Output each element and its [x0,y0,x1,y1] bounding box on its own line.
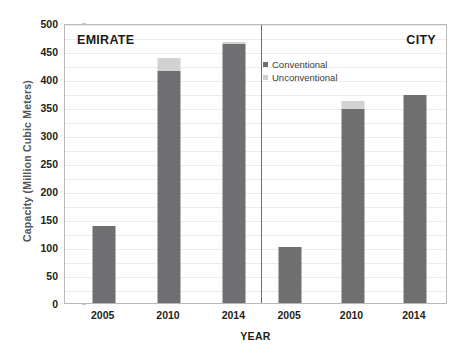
legend-swatch-unconventional-icon [263,75,268,80]
x-axis-title: YEAR [64,330,447,342]
y-tick-label: 300 [40,131,58,142]
legend-label-conventional: Conventional [272,60,327,70]
bar [92,226,115,303]
x-tick-label: 2014 [402,309,425,321]
legend: Conventional Unconventional [263,58,338,84]
y-tick-label: 500 [40,19,58,30]
bar [279,247,302,303]
x-tick-label: 2010 [340,309,363,321]
y-tick-label: 150 [40,215,58,226]
panel-title-city: CITY [406,33,436,47]
y-tick-label: 100 [40,243,58,254]
x-tick-label: 2005 [91,309,114,321]
bar-segment-unconventional [158,58,181,71]
legend-item-unconventional: Unconventional [263,71,338,84]
legend-label-unconventional: Unconventional [272,73,338,83]
bar-segment-conventional [92,226,115,303]
y-tick-label: 50 [46,271,58,282]
bar-segment-conventional [341,109,364,303]
y-tick-label: 0 [52,299,58,310]
bar-segment-unconventional [341,101,364,108]
plot-area: EMIRATE CITY Conventional Unconventional [64,24,447,304]
bar [341,101,364,303]
y-axis-tick-labels: 500450400350300250200150100500 [22,14,58,304]
x-axis-tick-labels: 200520102014200520102014 [64,309,447,325]
x-tick-label: 2005 [277,309,300,321]
x-tick-label: 2014 [222,309,245,321]
bar-segment-conventional [223,44,246,303]
bar-segment-conventional [279,247,302,303]
bar [223,42,246,303]
y-tick-label: 250 [40,159,58,170]
bar-chart: Capacity (Million Cubic Meters) 50045040… [0,0,471,364]
y-tick-label: 200 [40,187,58,198]
y-tick-label: 350 [40,103,58,114]
bar-segment-conventional [158,71,181,303]
bar [403,95,426,303]
legend-swatch-conventional-icon [263,62,268,67]
legend-item-conventional: Conventional [263,58,338,71]
y-tick-label: 450 [40,47,58,58]
panel-title-emirate: EMIRATE [77,33,134,47]
bar-segment-conventional [403,95,426,303]
bar [158,58,181,303]
y-tick-label: 400 [40,75,58,86]
x-tick-label: 2010 [156,309,179,321]
panel-emirate: EMIRATE [65,25,261,303]
